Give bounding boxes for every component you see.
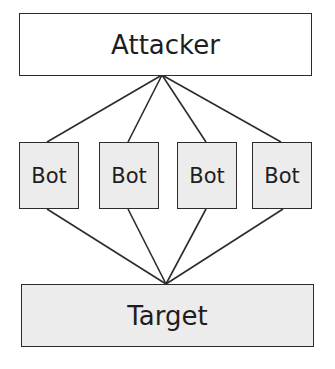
- bot-node-4: Bot: [252, 142, 312, 209]
- bot-node-2: Bot: [99, 142, 159, 209]
- bot-label: Bot: [189, 164, 225, 188]
- edge-bot-1-target: [47, 209, 166, 284]
- attacker-label: Attacker: [111, 30, 220, 60]
- target-label: Target: [127, 301, 207, 331]
- bot-label: Bot: [111, 164, 147, 188]
- edge-attacker-bot-4: [162, 75, 281, 142]
- attacker-node: Attacker: [19, 13, 312, 76]
- bot-label: Bot: [264, 164, 300, 188]
- target-node: Target: [21, 284, 314, 347]
- edge-bot-3-target: [166, 209, 206, 284]
- bot-node-1: Bot: [19, 142, 79, 209]
- edge-attacker-bot-3: [162, 75, 206, 142]
- bot-node-3: Bot: [177, 142, 237, 209]
- bot-label: Bot: [31, 164, 67, 188]
- edge-bot-4-target: [166, 209, 283, 284]
